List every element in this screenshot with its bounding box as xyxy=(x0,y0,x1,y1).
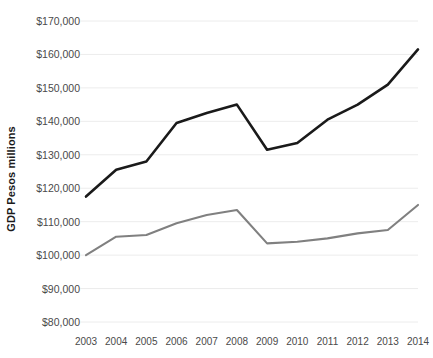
x-axis-tick-label: 2004 xyxy=(105,336,127,347)
gridlines xyxy=(80,21,418,322)
x-axis-tick-label: 2009 xyxy=(256,336,278,347)
x-axis-tick-label: 2010 xyxy=(286,336,308,347)
series-line-lower-series xyxy=(86,205,418,255)
series-lines xyxy=(86,49,418,255)
x-axis-tick-label: 2012 xyxy=(347,336,369,347)
x-axis-tick-label: 2003 xyxy=(75,336,97,347)
plot-area xyxy=(0,0,433,358)
x-axis-tick-label: 2014 xyxy=(407,336,429,347)
x-axis-tick-label: 2013 xyxy=(377,336,399,347)
x-axis-tick-label: 2007 xyxy=(196,336,218,347)
x-axis-tick-label: 2011 xyxy=(317,336,339,347)
series-line-upper-series xyxy=(86,49,418,196)
x-axis-tick-label: 2005 xyxy=(135,336,157,347)
x-axis-tick-label: 2008 xyxy=(226,336,248,347)
x-axis-tick-label: 2006 xyxy=(165,336,187,347)
gdp-line-chart: GDP Pesos millions $170,000$160,000$150,… xyxy=(0,0,433,358)
